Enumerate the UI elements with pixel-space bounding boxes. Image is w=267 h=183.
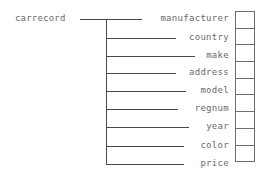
storage-cell-color bbox=[236, 129, 254, 146]
trunk-line bbox=[106, 19, 107, 165]
storage-cell-make bbox=[236, 45, 254, 62]
storage-cell-model bbox=[236, 79, 254, 96]
root-connector-line bbox=[80, 19, 106, 20]
field-label-country: country bbox=[129, 32, 229, 42]
storage-cell-manufacturer bbox=[236, 12, 254, 29]
storage-cell-address bbox=[236, 62, 254, 79]
field-label-manufacturer: manufacturer bbox=[129, 13, 229, 23]
field-label-regnum: regnum bbox=[129, 103, 229, 113]
field-label-year: year bbox=[129, 121, 229, 131]
field-label-address: address bbox=[129, 67, 229, 77]
field-label-make: make bbox=[129, 50, 229, 60]
storage-cell-price bbox=[236, 146, 254, 163]
storage-cells-column bbox=[235, 11, 255, 162]
storage-cell-year bbox=[236, 112, 254, 129]
storage-cell-country bbox=[236, 29, 254, 46]
field-label-color: color bbox=[129, 140, 229, 150]
field-label-model: model bbox=[129, 85, 229, 95]
root-record-label: carrecord bbox=[15, 13, 66, 23]
field-label-price: price bbox=[129, 158, 229, 168]
storage-cell-regnum bbox=[236, 95, 254, 112]
